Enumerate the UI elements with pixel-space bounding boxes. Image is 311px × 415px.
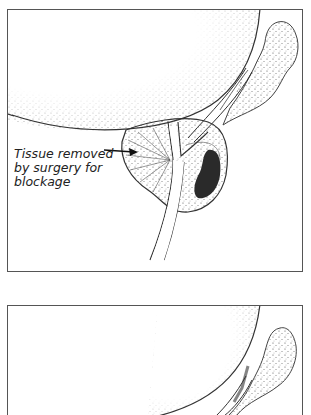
anatomy-drawing-before [8, 10, 303, 272]
annotation-line-1: Tissue removed [14, 147, 134, 161]
illustration-panel-before: Tissue removed by surgery for blockage [7, 9, 303, 272]
annotation-line-2: by surgery for [14, 161, 134, 175]
illustration-panel-after [7, 305, 303, 415]
annotation-line-3: blockage [14, 175, 134, 189]
annotation-label: Tissue removed by surgery for blockage [14, 147, 134, 189]
anatomy-drawing-after [8, 306, 303, 415]
